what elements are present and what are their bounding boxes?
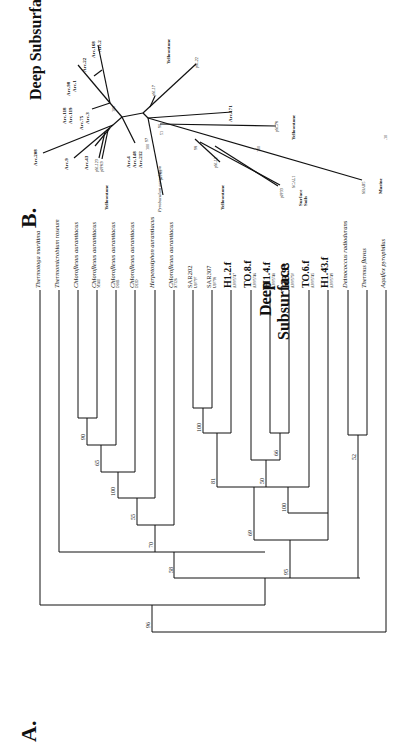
bootstrap-value: 65 (94, 460, 100, 466)
accession-label: AF005746 (254, 273, 258, 288)
bootstrap-value: 70 (148, 542, 154, 548)
bootstrap-value: 81 (210, 478, 216, 484)
clone-label: SBAR5 (362, 182, 366, 194)
panel-a-label: A. (18, 721, 40, 742)
clone-label: pJP8.9 (100, 161, 104, 172)
accession-label: D22D (136, 279, 140, 288)
species-label: Pyrobaculum aerophilum (158, 166, 163, 212)
taxon-label: Thermus flavus (361, 248, 368, 288)
clone-label: TO.6.f (301, 260, 311, 288)
taxon-label: Herpetosiphon aurantiacus (149, 217, 156, 288)
arc-label: Arc.118 (62, 108, 67, 124)
arc-label: Arc.171 (228, 105, 233, 122)
taxon-label: Deinococcus radiodurans (342, 221, 349, 288)
clone-label: pSL17 (152, 85, 156, 96)
arc-label: Arc.3 (85, 112, 90, 124)
arc-label: Arc.168 (91, 41, 96, 58)
bootstrap-value: 50 (259, 478, 265, 484)
accession-label: U20798 (214, 277, 218, 288)
bootstrap-value: 100 (146, 144, 150, 150)
arc-label: Arc.75 (79, 116, 84, 130)
clone-label: pSL22 (195, 57, 199, 68)
accession-label: X7326 (175, 278, 179, 288)
clone-label: pJP33 (280, 188, 284, 198)
accession-label: AF005747 (234, 273, 238, 288)
bootstrap-value: 100 (196, 423, 202, 432)
bootstrap-value: 100 (281, 503, 287, 512)
clone-label: pSL123 (95, 159, 99, 172)
env-yellowstone: Yellowstone (220, 185, 225, 210)
arc-label: Arc.119 (68, 108, 73, 124)
bootstrap-value: 95 (283, 569, 289, 575)
accession-label: AF005745 (312, 273, 316, 288)
accession-label: AF005750 (292, 273, 296, 288)
clone-label: H1.43.f (320, 257, 330, 288)
clone-label: H1.2.f (223, 262, 233, 288)
accession-label: AF005749 (331, 273, 335, 288)
arc-label: Arc.9 (64, 158, 69, 170)
accession-label: D18B (117, 280, 121, 288)
panel-b-branches (43, 45, 362, 195)
taxon-label: Aquifex pyrophilus (380, 239, 387, 288)
bootstrap-value: 66 (273, 450, 279, 456)
arc-label: Arc.2 (97, 40, 102, 52)
accession-label: AF005748 (273, 273, 277, 288)
clone-label: SAR307 (206, 266, 213, 288)
bootstrap-value: 58 (168, 567, 174, 573)
arc-label: Arc.22 (82, 58, 87, 72)
env-marine: Marine (378, 178, 383, 194)
bootstrap-value: 100 (257, 146, 261, 152)
bootstrap-value: 90 (158, 124, 162, 128)
bootstrap-value: 69 (247, 530, 253, 536)
bootstrap-value: 98 (194, 146, 198, 150)
phylogeny-figure: B. Deep Subsurface Arc.168 Arc.2 Arc.22 … (0, 0, 409, 742)
bootstrap-value: 96 (145, 622, 151, 628)
taxon-label: Chloroflexus aurantiacus (73, 222, 80, 288)
arc-label: Arc.208 (33, 149, 38, 166)
clone-label: pSL78 (275, 121, 279, 132)
bootstrap-value: 97 (145, 138, 149, 142)
env-yellowstone: Yellowstone (104, 185, 109, 210)
panel-b-label: B. (18, 208, 40, 228)
accession-label: U20797 (195, 277, 199, 288)
clone-label: H1.4.f (262, 262, 272, 288)
env-surface-soils: Surface Soils (298, 186, 308, 206)
bootstrap-value: 51 (160, 131, 164, 135)
scale-bar-label: .10 (384, 135, 388, 140)
env-yellowstone: Yellowstone (166, 39, 171, 64)
bootstrap-value: 52 (351, 454, 357, 460)
bootstrap-value: 100 (110, 487, 116, 496)
clone-label: SCAL1 (292, 176, 296, 188)
clone-label: TO.8.f (243, 260, 253, 288)
taxon-label: Thermomicrobium roseum (54, 219, 61, 288)
arc-label: Arc.98 (66, 82, 71, 96)
accession-label: M341I (98, 278, 102, 288)
bootstrap-value: 100 (112, 106, 116, 112)
panel-a-branches (40, 290, 386, 632)
arc-label: Arc.212 (138, 151, 143, 168)
env-yellowstone: Yellowstone (291, 115, 296, 140)
panel-b-title: Deep Subsurface (28, 0, 44, 100)
arc-label: Arc.43 (84, 156, 89, 170)
bootstrap-value: 90 (80, 434, 86, 440)
taxon-label: Thermotoga maritima (35, 231, 42, 288)
clone-label: pSL12 (214, 157, 218, 168)
bootstrap-value: 55 (130, 514, 136, 520)
arc-label: Arc.148 (132, 151, 137, 168)
taxon-label: Chloroflexus aurantiacus (110, 222, 117, 288)
clone-label: H3.93 (281, 263, 291, 288)
arc-label: Arc.1 (72, 80, 77, 92)
clone-label: SAR202 (187, 266, 194, 288)
arc-label: Arc.4 (126, 156, 131, 168)
